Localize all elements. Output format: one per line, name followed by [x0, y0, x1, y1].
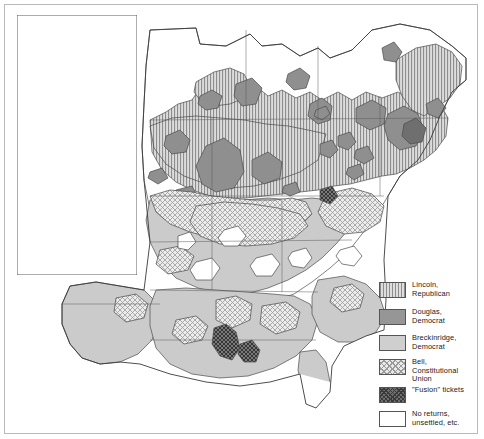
legend-item-bell: Bell, Constitutional Union — [379, 358, 458, 384]
legend-label-douglas: Douglas, Democrat — [412, 308, 445, 325]
legend-item-lincoln: Lincoln, Republican — [379, 281, 450, 298]
legend-swatch-breckinridge — [379, 335, 406, 351]
legend-label-fusion: "Fusion" tickets — [412, 386, 464, 395]
map-legend: Lincoln, Republican Douglas, Democrat Br… — [379, 281, 479, 433]
election-map-figure: Lincoln, Republican Douglas, Democrat Br… — [0, 0, 484, 439]
legend-swatch-bell — [379, 359, 406, 375]
legend-label-breckinridge: Breckinridge, Democrat — [412, 334, 456, 351]
legend-swatch-no-returns — [379, 411, 406, 427]
legend-label-bell: Bell, Constitutional Union — [412, 358, 458, 384]
legend-swatch-lincoln — [379, 282, 406, 298]
legend-item-breckinridge: Breckinridge, Democrat — [379, 334, 456, 351]
legend-swatch-fusion — [379, 387, 406, 403]
pacific-inset — [17, 15, 137, 275]
legend-item-no-returns: No returns, unsettled, etc. — [379, 410, 460, 427]
legend-label-lincoln: Lincoln, Republican — [412, 281, 450, 298]
legend-item-fusion: "Fusion" tickets — [379, 386, 464, 403]
legend-label-no-returns: No returns, unsettled, etc. — [412, 410, 460, 427]
legend-swatch-douglas — [379, 309, 406, 325]
legend-item-douglas: Douglas, Democrat — [379, 308, 445, 325]
